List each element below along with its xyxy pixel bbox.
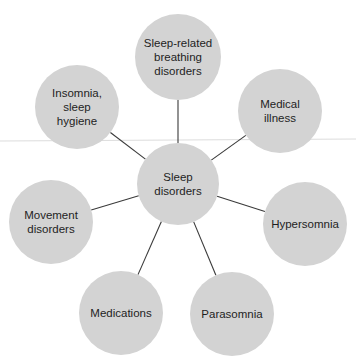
node-parasomnia: Parasomnia (190, 272, 274, 356)
connector-line (194, 222, 216, 275)
node-label: Movement disorders (24, 208, 78, 236)
node-label: Medications (90, 306, 151, 320)
node-movement-disorders: Movement disorders (9, 180, 93, 264)
node-label: Parasomnia (201, 307, 262, 321)
center-node-label: Sleep disorders (154, 170, 201, 198)
node-medical-illness: Medical illness (238, 69, 322, 153)
node-hypersomnia: Hypersomnia (263, 182, 347, 266)
node-label: Insomnia, sleep hygiene (52, 86, 102, 128)
node-insomnia-sleep-hygiene: Insomnia, sleep hygiene (35, 65, 119, 149)
node-medications: Medications (79, 271, 163, 355)
node-sleep-related-breathing-disorders: Sleep-related breathing disorders (135, 14, 221, 100)
node-label: Medical illness (260, 97, 300, 125)
connector-line (138, 222, 161, 275)
center-node-sleep-disorders: Sleep disorders (137, 143, 219, 225)
node-label: Sleep-related breathing disorders (144, 36, 212, 78)
connector-line (110, 133, 145, 160)
node-label: Hypersomnia (271, 217, 339, 231)
connector-line (211, 135, 246, 160)
connector-line (217, 196, 265, 211)
connector-line (91, 196, 139, 210)
sleep-disorders-diagram: Sleep disorders Sleep-related breathing … (0, 0, 356, 364)
